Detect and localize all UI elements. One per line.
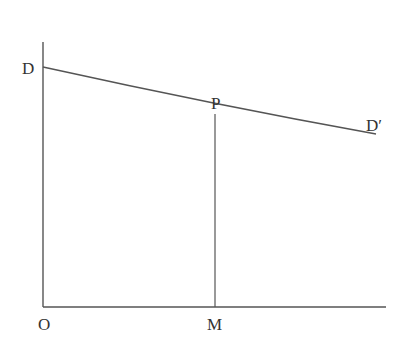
diagram-svg bbox=[0, 0, 412, 353]
label-d-prime: D′ bbox=[366, 117, 382, 134]
label-o: O bbox=[38, 316, 50, 333]
diagram-canvas: D P D′ O M bbox=[0, 0, 412, 353]
label-p: P bbox=[211, 95, 220, 112]
label-d: D bbox=[22, 60, 34, 77]
label-m: M bbox=[207, 316, 222, 333]
demand-curve bbox=[43, 67, 376, 134]
